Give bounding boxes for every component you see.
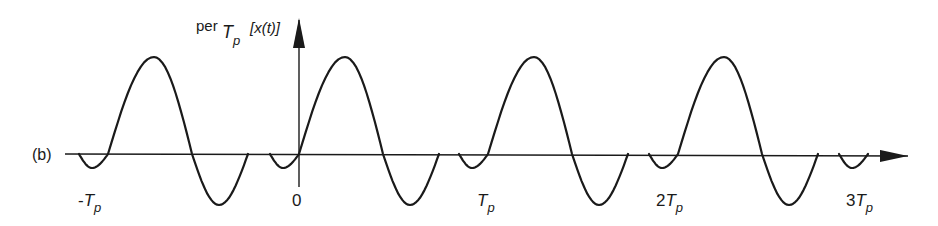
x-tick-label: 0	[292, 191, 301, 210]
waveform-period-segment	[270, 57, 439, 205]
y-label-prefix: per	[196, 17, 218, 34]
x-tick-label: Tp	[477, 191, 495, 215]
y-axis-label: per T p [x(t)]	[196, 17, 281, 48]
periodic-signal-diagram: (b) per T p [x(t)] -Tp0Tp2Tp3Tp	[0, 0, 938, 226]
waveform-period-segment	[79, 57, 248, 205]
waveform-period-segment	[459, 57, 628, 205]
x-tick-label: 3Tp	[846, 191, 873, 215]
x-tick-label: 2Tp	[656, 191, 683, 215]
waveform-period-segment	[649, 57, 818, 205]
y-axis-arrowhead-icon	[293, 18, 305, 48]
x-tick-labels: -Tp0Tp2Tp3Tp	[78, 191, 873, 215]
waveform	[79, 57, 868, 205]
panel-label: (b)	[32, 146, 52, 163]
x-tick-label: -Tp	[78, 191, 101, 215]
y-label-argument: [x(t)]	[249, 19, 281, 36]
y-label-period-index: p	[232, 33, 240, 48]
